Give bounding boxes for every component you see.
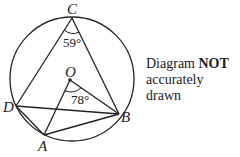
disclaimer-prefix: Diagram	[146, 56, 198, 71]
segment-ab	[44, 114, 119, 135]
disclaimer-line-1: Diagram NOT	[146, 56, 240, 72]
segment-oa	[44, 80, 70, 135]
disclaimer-note: Diagram NOT accurately drawn	[146, 56, 240, 104]
disclaimer-line-2: accurately drawn	[146, 72, 240, 104]
disclaimer-emphasis: NOT	[198, 56, 228, 71]
label-b: B	[121, 109, 130, 125]
segment-da	[16, 106, 44, 135]
label-o: O	[65, 64, 76, 80]
angle-arc-c	[64, 30, 79, 34]
label-a: A	[37, 138, 48, 154]
angle-label-o: 78°	[71, 92, 89, 107]
segment-db	[16, 106, 119, 114]
label-d: D	[2, 99, 14, 115]
label-c: C	[67, 1, 78, 17]
angle-label-c: 59°	[63, 35, 81, 50]
